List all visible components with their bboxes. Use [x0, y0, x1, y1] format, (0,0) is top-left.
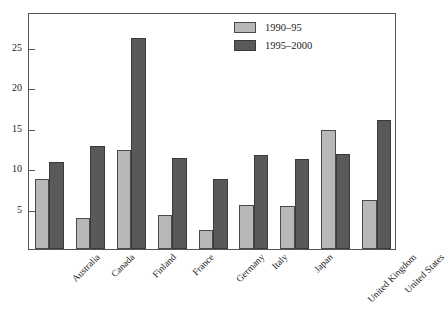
bar: [336, 154, 351, 249]
y-axis-tick: [29, 89, 35, 90]
bar: [377, 120, 392, 249]
legend-item: 1995–2000: [234, 36, 312, 54]
x-axis-label: Germany: [234, 252, 266, 284]
bar: [280, 206, 295, 249]
bar: [90, 146, 105, 249]
y-axis-tick: [29, 49, 35, 50]
bar: [321, 130, 336, 249]
bar: [199, 230, 214, 249]
y-axis-tick-label: 20: [0, 83, 22, 93]
x-axis-label: Canada: [110, 252, 137, 279]
bar: [49, 162, 64, 249]
y-axis-tick-label: 5: [0, 205, 22, 215]
legend-item: 1990–95: [234, 18, 312, 36]
bar: [76, 218, 91, 249]
legend-label: 1995–2000: [265, 40, 312, 51]
bar: [254, 155, 269, 249]
x-axis-label: Italy: [270, 252, 289, 271]
legend-swatch: [234, 22, 256, 33]
x-axis-label: Australia: [71, 252, 103, 284]
bar: [213, 179, 228, 249]
x-axis-label: Finland: [151, 252, 179, 280]
bar: [117, 150, 132, 249]
bar: [131, 38, 146, 249]
y-axis-tick-label: 15: [0, 124, 22, 134]
bar: [295, 159, 310, 249]
y-axis-tick-label: 25: [0, 43, 22, 53]
bar: [172, 158, 187, 249]
legend-swatch: [234, 40, 256, 51]
plot-area: [28, 13, 396, 250]
bar: [239, 205, 254, 249]
x-axis-label: United Kingdom: [365, 252, 417, 304]
bar: [362, 200, 377, 249]
x-axis-label: Japan: [312, 252, 334, 274]
y-axis-tick: [29, 130, 35, 131]
y-axis-tick-label: 10: [0, 164, 22, 174]
chart-legend: 1990–951995–2000: [234, 18, 312, 54]
legend-label: 1990–95: [265, 22, 302, 33]
bar: [35, 179, 50, 249]
x-axis-label: France: [191, 252, 216, 277]
y-axis-tick: [29, 170, 35, 171]
bar: [158, 215, 173, 249]
